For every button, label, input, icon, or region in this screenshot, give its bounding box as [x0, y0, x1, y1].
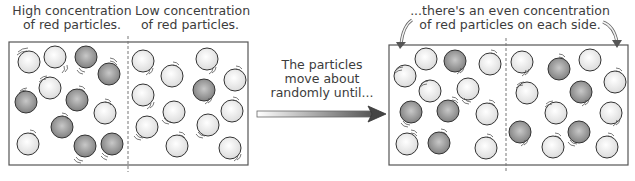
transition-arrow-icon	[257, 106, 386, 122]
diffusion-diagram	[0, 0, 635, 181]
curved-arrow-right-icon	[603, 22, 622, 48]
